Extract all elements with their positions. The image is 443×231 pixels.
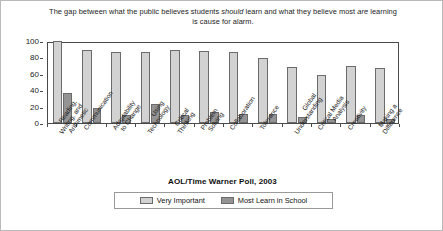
legend-label: Very Important bbox=[157, 196, 205, 205]
y-tick-label: 80 bbox=[30, 54, 39, 62]
y-tick-mark bbox=[40, 58, 43, 59]
chart-title-emphasis: are bbox=[357, 7, 368, 16]
legend-entry-very-important: Very Important bbox=[140, 196, 205, 205]
y-tick-mark bbox=[40, 91, 43, 92]
y-tick-label: 40 bbox=[30, 87, 39, 95]
legend-swatch-icon bbox=[221, 197, 234, 204]
chart-title-text: learn and what they believe bbox=[243, 7, 336, 16]
bar-very-important bbox=[170, 50, 180, 123]
y-tick-label: 100 bbox=[26, 38, 39, 46]
source-caption: AOL/Time Warner Poll, 2003 bbox=[1, 177, 443, 186]
chart-legend: Very Important Most Learn in School bbox=[114, 192, 333, 209]
y-tick-label: 20 bbox=[30, 104, 39, 112]
chart-title-line-1: The gap between what the public believes… bbox=[49, 7, 337, 16]
y-tick-mark bbox=[40, 124, 43, 125]
bar-very-important bbox=[199, 51, 209, 123]
legend-swatch-icon bbox=[140, 197, 153, 204]
bar-very-important bbox=[53, 41, 63, 123]
chart-title: The gap between what the public believes… bbox=[47, 7, 399, 27]
chart-title-emphasis: should bbox=[221, 7, 243, 16]
chart-title-text: The gap between what the public believes… bbox=[49, 7, 221, 16]
chart-figure: The gap between what the public believes… bbox=[0, 0, 443, 231]
y-tick-label: 60 bbox=[30, 71, 39, 79]
legend-label: Most Learn in School bbox=[238, 196, 307, 205]
y-axis: 020406080100 bbox=[17, 35, 43, 131]
x-axis-labels: Reading,Writing, andArithmeticCommunicat… bbox=[1, 127, 443, 179]
y-tick-mark bbox=[40, 75, 43, 76]
chart-title-text: most bbox=[339, 7, 357, 16]
y-tick-mark bbox=[40, 108, 43, 109]
legend-entry-most-learn-in-school: Most Learn in School bbox=[221, 196, 307, 205]
y-tick-mark bbox=[40, 42, 43, 43]
bar-very-important bbox=[111, 52, 121, 123]
